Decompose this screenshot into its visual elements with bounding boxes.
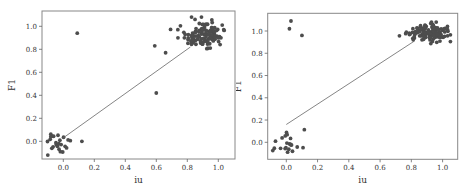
x-tick-label: 0.0 (281, 164, 292, 172)
data-point (193, 31, 197, 35)
y-tick-label: 0.4 (26, 92, 38, 100)
data-point (429, 22, 433, 26)
scatter-chart-right: 0.00.20.40.60.81.00.00.20.40.60.81.0iuF1 (236, 0, 472, 191)
data-point (289, 19, 293, 23)
y-axis-label: F1 (236, 80, 243, 92)
data-point (204, 35, 208, 39)
x-tick-label: 0.2 (89, 164, 100, 172)
data-point (75, 31, 79, 35)
data-point (182, 36, 186, 40)
y-tick-label: 1.0 (26, 23, 37, 31)
x-tick-label: 1.0 (213, 164, 224, 172)
data-point (291, 149, 295, 153)
data-point (197, 22, 201, 26)
data-point (220, 23, 224, 27)
data-point (436, 26, 440, 30)
scatter-chart-left: 0.00.20.40.60.81.00.00.20.40.60.81.0iuF1 (0, 0, 236, 191)
x-tick-label: 0.0 (58, 164, 69, 172)
data-point (66, 138, 70, 142)
data-point (183, 33, 187, 37)
data-point (446, 25, 450, 29)
data-point (429, 36, 433, 40)
data-point (412, 35, 416, 39)
data-point (210, 33, 214, 37)
x-tick-label: 0.6 (151, 164, 163, 172)
data-point (215, 29, 219, 33)
x-tick-label: 0.8 (182, 164, 193, 172)
data-point (57, 142, 61, 146)
data-point (204, 30, 208, 34)
data-point (222, 29, 226, 33)
data-point (176, 36, 180, 40)
data-point (46, 153, 50, 157)
y-tick-label: 0.6 (252, 72, 264, 80)
y-axis-label: F1 (7, 79, 17, 91)
y-tick-label: 0.8 (26, 46, 37, 54)
data-point (196, 37, 200, 41)
data-point (179, 24, 183, 28)
data-point (449, 40, 453, 44)
data-point (427, 31, 431, 35)
data-point (279, 146, 283, 150)
plot-area-right: 0.00.20.40.60.81.00.00.20.40.60.81.0iuF1 (236, 0, 472, 191)
data-point (422, 37, 426, 41)
data-point (206, 46, 210, 50)
data-point (154, 91, 158, 95)
data-point (200, 15, 204, 19)
data-point (190, 38, 194, 42)
data-point (201, 28, 205, 32)
data-point (169, 28, 173, 32)
y-tick-label: 0.2 (252, 117, 263, 125)
data-point (446, 29, 450, 33)
data-point (419, 27, 423, 31)
y-tick-label: 0.0 (252, 139, 263, 147)
data-point (194, 27, 198, 31)
data-point (190, 34, 194, 38)
y-tick-label: 0.6 (26, 69, 38, 77)
data-point (416, 27, 420, 31)
data-point (301, 146, 305, 150)
data-point (429, 42, 433, 46)
plot-area-left: 0.00.20.40.60.81.00.00.20.40.60.81.0iuF1 (0, 0, 236, 191)
data-point (164, 51, 168, 55)
x-tick-label: 1.0 (437, 164, 448, 172)
data-point (419, 24, 423, 28)
data-point (411, 27, 415, 31)
data-point (423, 31, 427, 35)
y-tick-label: 0.0 (26, 138, 37, 146)
x-tick-label: 0.8 (406, 164, 417, 172)
data-point (176, 28, 180, 32)
data-point (210, 21, 214, 25)
x-tick-label: 0.6 (375, 164, 387, 172)
data-point (288, 27, 292, 31)
y-tick-label: 0.8 (252, 50, 263, 58)
data-point (186, 36, 190, 40)
data-point (300, 34, 304, 38)
data-point (274, 139, 278, 143)
data-point (80, 139, 84, 143)
data-point (153, 44, 157, 48)
data-point (289, 137, 293, 141)
y-tick-label: 0.2 (26, 115, 37, 123)
data-point (50, 146, 54, 150)
data-point (287, 147, 291, 151)
data-point (58, 138, 62, 142)
data-point (435, 33, 439, 37)
data-point (434, 20, 438, 24)
data-point (49, 135, 53, 139)
data-point (190, 15, 194, 19)
data-point (56, 133, 60, 137)
data-point (398, 34, 402, 38)
regression-line (286, 41, 414, 124)
data-point (302, 128, 306, 132)
data-point (203, 25, 207, 29)
data-point (408, 33, 412, 37)
data-point (61, 150, 65, 154)
data-point (418, 34, 422, 38)
y-tick-label: 0.4 (252, 94, 264, 102)
x-axis-label: iu (358, 175, 367, 185)
data-point (200, 42, 204, 46)
data-point (193, 18, 197, 22)
regression-line (63, 47, 190, 138)
data-point (280, 136, 284, 140)
